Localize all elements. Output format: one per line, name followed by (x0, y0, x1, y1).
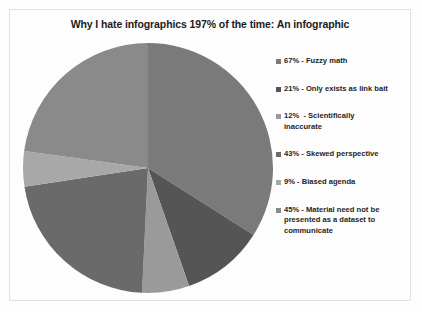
legend-swatch-icon (276, 180, 281, 185)
chart-legend: 67% - Fuzzy math21% - Only exists as lin… (276, 56, 412, 253)
legend-item[interactable]: 12% - Scientifically inaccurate (276, 111, 412, 132)
legend-item[interactable]: 43% - Skewed perspective (276, 149, 412, 160)
legend-item-label: 67% - Fuzzy math (284, 56, 347, 67)
legend-item-label: 12% - Scientifically inaccurate (284, 111, 354, 132)
pie-chart-svg (22, 42, 274, 294)
pie-slice-group (23, 43, 273, 293)
infographic-canvas: Why I hate infographics 197% of the time… (0, 0, 422, 312)
legend-item-label: 45% - Material need not be presented as … (284, 205, 379, 237)
legend-item-label: 43% - Skewed perspective (284, 149, 379, 160)
legend-item-label: 21% - Only exists as link bait (284, 84, 388, 95)
legend-swatch-icon (276, 87, 281, 92)
pie-slice[interactable] (24, 168, 148, 293)
legend-swatch-icon (276, 59, 281, 64)
pie-chart (22, 42, 274, 294)
pie-slice[interactable] (24, 43, 148, 168)
legend-item[interactable]: 45% - Material need not be presented as … (276, 205, 412, 237)
legend-swatch-icon (276, 208, 281, 213)
legend-swatch-icon (276, 114, 281, 119)
legend-item[interactable]: 9% - Biased agenda (276, 177, 412, 188)
legend-item[interactable]: 67% - Fuzzy math (276, 56, 412, 67)
chart-title: Why I hate infographics 197% of the time… (9, 18, 411, 30)
legend-item[interactable]: 21% - Only exists as link bait (276, 84, 412, 95)
legend-item-label: 9% - Biased agenda (284, 177, 355, 188)
legend-swatch-icon (276, 152, 281, 157)
